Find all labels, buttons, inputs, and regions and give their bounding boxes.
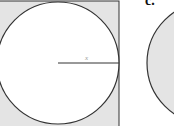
panel-label: c. xyxy=(145,0,155,9)
diagram-canvas: x xyxy=(0,0,174,126)
right-circle xyxy=(147,2,174,124)
